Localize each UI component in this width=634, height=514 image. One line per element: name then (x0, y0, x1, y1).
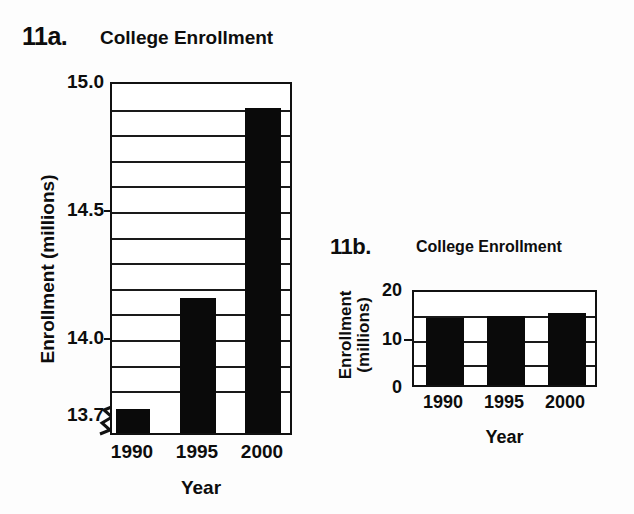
figure-number-label-b: 11b. (330, 234, 371, 260)
bar-2000 (245, 108, 281, 433)
bar-1995 (180, 298, 216, 433)
y-axis-ticks-b: 20 10 0 (354, 290, 408, 387)
y-tick-mark-10 (404, 339, 412, 341)
x-tick-label-1990: 1990 (414, 392, 472, 413)
y-tick-label-20: 20 (382, 280, 402, 301)
y-tick-label-0: 0 (392, 377, 402, 398)
bar-2000 (548, 313, 586, 385)
y-axis-label-b-line1: Enrollment (337, 260, 355, 410)
bar-1995 (487, 316, 525, 385)
chart-title-b: College Enrollment (416, 238, 562, 256)
figure-11b: 11b. College Enrollment Enrollment (mill… (316, 225, 634, 514)
y-axis-ticks-a: 15.0 14.5 14.0 13.7 (28, 0, 104, 514)
x-tick-label-1995: 1995 (167, 441, 227, 463)
x-tick-label-1990: 1990 (102, 441, 162, 463)
figure-11a: 11a. College Enrollment Enrollment (mill… (0, 0, 340, 514)
x-tick-label-1995: 1995 (475, 392, 533, 413)
chart-title-a: College Enrollment (100, 27, 273, 49)
plot-area-a (110, 82, 292, 435)
y-tick-label-13-7: 13.7 (32, 404, 104, 426)
x-tick-label-2000: 2000 (536, 392, 594, 413)
y-tick-label-14-5: 14.5 (32, 199, 104, 221)
bar-1990 (116, 409, 150, 433)
y-tick-label-10: 10 (382, 328, 402, 349)
plot-area-b (412, 290, 597, 387)
x-axis-ticks-a: 1990 1995 2000 (110, 441, 292, 467)
figure-page: 11a. College Enrollment Enrollment (mill… (0, 0, 634, 514)
x-axis-label-a: Year (110, 477, 292, 499)
x-axis-label-b: Year (412, 427, 597, 448)
y-tick-label-14-0: 14.0 (32, 327, 104, 349)
bar-1990 (426, 318, 464, 385)
x-tick-label-2000: 2000 (232, 441, 292, 463)
x-axis-ticks-b: 1990 1995 2000 (412, 392, 597, 416)
y-tick-label-15-0: 15.0 (32, 71, 104, 93)
